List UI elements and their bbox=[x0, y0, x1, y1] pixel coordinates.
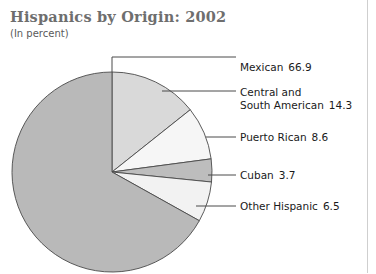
chart-figure: Hispanics by Origin: 2002 (In percent) M… bbox=[0, 0, 376, 274]
legend-name-cuban: Cuban bbox=[240, 169, 274, 181]
legend-name-central-line2-wrap: South American14.3 bbox=[240, 99, 352, 112]
legend-label-central-south-american: Central and South American14.3 bbox=[240, 86, 352, 111]
legend-name-central-line2: South American bbox=[240, 99, 324, 111]
legend-label-cuban: Cuban3.7 bbox=[240, 169, 295, 182]
legend-name-puerto-rican: Puerto Rican bbox=[240, 131, 307, 143]
legend-label-puerto-rican: Puerto Rican8.6 bbox=[240, 131, 328, 144]
legend-name-central-line1: Central and bbox=[240, 86, 352, 99]
legend-value-puerto-rican: 8.6 bbox=[312, 131, 329, 143]
pie-slice-group bbox=[12, 72, 212, 272]
legend-value-cuban: 3.7 bbox=[279, 169, 296, 181]
legend-value-central: 14.3 bbox=[329, 99, 352, 111]
leader-line-mexican bbox=[112, 57, 236, 72]
legend-value-other-hispanic: 6.5 bbox=[323, 200, 340, 212]
legend-name-mexican: Mexican bbox=[240, 61, 283, 73]
legend-label-other-hispanic: Other Hispanic6.5 bbox=[240, 200, 340, 213]
legend-value-mexican: 66.9 bbox=[288, 61, 311, 73]
legend-name-other-hispanic: Other Hispanic bbox=[240, 200, 318, 212]
legend-label-mexican: Mexican66.9 bbox=[240, 61, 312, 74]
